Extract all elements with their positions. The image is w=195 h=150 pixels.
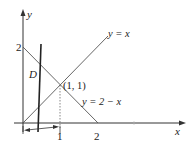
region-diagram: y x 2 1 2 D (1, 1) y = x y = 2 − x bbox=[0, 0, 195, 150]
interval-arrow bbox=[23, 125, 60, 134]
x-axis-label: x bbox=[174, 125, 180, 137]
y-axis-label: y bbox=[26, 8, 32, 20]
y-axis bbox=[21, 9, 26, 132]
y-tick-2: 2 bbox=[16, 41, 22, 53]
arrow-right-icon bbox=[53, 125, 59, 129]
x-axis bbox=[14, 121, 186, 126]
line-label-y-equals-x: y = x bbox=[107, 28, 130, 39]
vertical-slice-line bbox=[38, 44, 41, 132]
line-label-y-equals-2-minus-x: y = 2 − x bbox=[81, 96, 122, 107]
region-label-D: D bbox=[28, 68, 37, 80]
y-axis-arrow-icon bbox=[21, 9, 26, 16]
x-tick-1: 1 bbox=[57, 130, 63, 142]
x-axis-arrow-icon bbox=[179, 121, 186, 126]
arrow-left-icon bbox=[24, 128, 30, 132]
x-tick-2: 2 bbox=[94, 130, 100, 142]
intersection-label: (1, 1) bbox=[63, 80, 86, 92]
